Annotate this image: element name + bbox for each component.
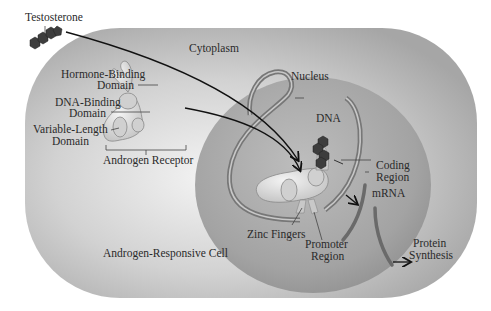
- label-zinc-fingers: Zinc Fingers: [247, 228, 306, 241]
- label-variable-length-2: Domain: [52, 135, 89, 147]
- label-cytoplasm: Cytoplasm: [189, 42, 239, 55]
- label-promoter-region-2: Region: [311, 250, 344, 263]
- label-androgen-receptor: Androgen Receptor: [103, 154, 194, 167]
- label-coding-region-2: Region: [376, 171, 409, 184]
- label-protein-synthesis-2: Synthesis: [409, 249, 454, 262]
- label-dna: DNA: [316, 112, 342, 124]
- label-nucleus: Nucleus: [291, 70, 329, 82]
- label-hormone-binding-2: Domain: [97, 79, 134, 91]
- label-mrna: mRNA: [372, 187, 406, 199]
- testosterone-molecule-free: [30, 26, 62, 49]
- label-cell: Androgen-Responsive Cell: [103, 247, 228, 260]
- label-testosterone: Testosterone: [25, 11, 83, 23]
- androgen-receptor-diagram: Testosterone Cytoplasm Nucleus Hormone-B…: [0, 0, 491, 311]
- label-dna-binding-2: Domain: [69, 107, 106, 119]
- label-promoter-region-1: Promoter: [305, 238, 348, 250]
- label-protein-synthesis-1: Protein: [413, 237, 446, 249]
